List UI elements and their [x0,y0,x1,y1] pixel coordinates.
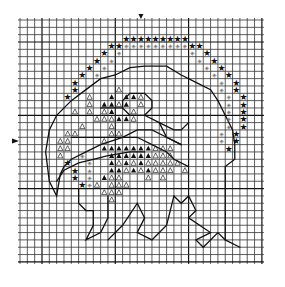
filled-triangle-stitch-icon [102,146,107,151]
diamond-stitch-icon: ◈ [102,64,107,71]
filled-triangle-stitch-icon [102,175,107,180]
filled-triangle-stitch-icon [146,153,151,158]
open-triangle-stitch-icon [102,190,107,195]
diamond-stitch-icon: ◈ [146,42,151,49]
diamond-stitch-icon: ◈ [168,42,173,49]
open-triangle-stitch-icon [87,94,92,99]
open-triangle-stitch-icon [168,168,173,173]
open-triangle-stitch-icon [87,109,92,114]
filled-triangle-stitch-icon [116,168,121,173]
open-triangle-stitch-icon [72,131,77,136]
filled-triangle-stitch-icon [138,160,143,165]
cross-stitch-chart: ★★★★★★★★★★★★★★★★★★★★★★★★★★★★★★★★★★★★★★◈◈… [0,0,285,287]
filled-triangle-stitch-icon [116,116,121,121]
star-stitch-icon: ★ [240,122,248,132]
open-triangle-stitch-icon [109,116,114,121]
open-triangle-stitch-icon [116,131,121,136]
open-triangle-stitch-icon [109,190,114,195]
diamond-stitch-icon: ◈ [227,115,232,122]
open-triangle-stitch-icon [65,131,70,136]
diamond-stitch-icon: ◈ [227,93,232,100]
center-top-arrow-icon [138,14,143,19]
star-stitch-icon: ★ [100,48,108,58]
open-triangle-stitch-icon [94,182,99,187]
open-triangle-stitch-icon [160,175,165,180]
open-triangle-stitch-icon [153,146,158,151]
diamond-stitch-icon: ◈ [139,42,144,49]
open-triangle-stitch-icon [131,109,136,114]
open-triangle-stitch-icon [65,138,70,143]
diamond-stitch-icon: ◈ [219,130,224,137]
star-stitch-icon: ★ [93,56,101,66]
diamond-stitch-icon: ◈ [227,101,232,108]
open-triangle-stitch-icon [153,168,158,173]
diamond-stitch-icon: ◈ [219,79,224,86]
diamond-stitch-icon: ◈ [190,49,195,56]
open-triangle-stitch-icon [168,160,173,165]
open-triangle-stitch-icon [124,168,129,173]
open-triangle-stitch-icon [146,160,151,165]
open-triangle-stitch-icon [109,182,114,187]
filled-triangle-stitch-icon [109,146,114,151]
open-triangle-stitch-icon [131,160,136,165]
open-triangle-stitch-icon [109,131,114,136]
stitch-grid [18,18,264,264]
diamond-stitch-icon: ◈ [227,123,232,130]
open-triangle-stitch-icon [58,146,63,151]
diamond-stitch-icon: ◈ [87,167,92,174]
diamond-stitch-icon: ◈ [212,71,217,78]
open-triangle-stitch-icon [58,138,63,143]
open-triangle-stitch-icon [102,109,107,114]
open-triangle-stitch-icon [109,124,114,129]
filled-triangle-stitch-icon [124,146,129,151]
open-triangle-stitch-icon [80,124,85,129]
filled-triangle-stitch-icon [116,146,121,151]
diamond-stitch-icon: ◈ [109,57,114,64]
filled-triangle-stitch-icon [109,168,114,173]
open-triangle-stitch-icon [138,168,143,173]
filled-triangle-stitch-icon [109,102,114,107]
filled-triangle-stitch-icon [131,146,136,151]
diamond-stitch-icon: ◈ [124,42,129,49]
open-triangle-stitch-icon [116,182,121,187]
open-triangle-stitch-icon [102,138,107,143]
star-stitch-icon: ★ [64,92,72,102]
diamond-stitch-icon: ◈ [95,71,100,78]
open-triangle-stitch-icon [87,102,92,107]
filled-triangle-stitch-icon [124,153,129,158]
filled-triangle-stitch-icon [124,102,129,107]
diamond-stitch-icon: ◈ [87,159,92,166]
filled-triangle-stitch-icon [124,116,129,121]
star-stitch-icon: ★ [225,144,233,154]
star-stitch-icon: ★ [78,180,86,190]
open-triangle-stitch-icon [116,102,121,107]
diamond-stitch-icon: ◈ [117,49,122,56]
filled-triangle-stitch-icon [138,153,143,158]
open-triangle-stitch-icon [109,197,114,202]
diamond-stitch-icon: ◈ [219,137,224,144]
open-triangle-stitch-icon [131,116,136,121]
diamond-stitch-icon: ◈ [227,108,232,115]
filled-triangle-stitch-icon [109,109,114,114]
open-triangle-stitch-icon [138,102,143,107]
center-left-arrow-icon [12,138,19,143]
open-triangle-stitch-icon [146,175,151,180]
open-triangle-stitch-icon [175,160,180,165]
open-triangle-stitch-icon [160,168,165,173]
open-triangle-stitch-icon [138,94,143,99]
star-stitch-icon: ★ [78,70,86,80]
diamond-stitch-icon: ◈ [131,42,136,49]
open-triangle-stitch-icon [182,168,187,173]
filled-triangle-stitch-icon [109,94,114,99]
open-triangle-stitch-icon [94,116,99,121]
filled-triangle-stitch-icon [146,168,151,173]
diamond-stitch-icon: ◈ [87,174,92,181]
filled-triangle-stitch-icon [146,146,151,151]
open-triangle-stitch-icon [102,116,107,121]
open-triangle-stitch-icon [160,153,165,158]
filled-triangle-stitch-icon [138,146,143,151]
diamond-stitch-icon: ◈ [219,86,224,93]
filled-triangle-stitch-icon [131,94,136,99]
filled-triangle-stitch-icon [124,160,129,165]
open-triangle-stitch-icon [72,109,77,114]
